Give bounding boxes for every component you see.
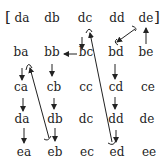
hook-dc [86,29,92,33]
letter-grid-diagram: [ ] da db dc dd de ba bb bc bd be ca cb … [0,0,163,162]
arrow-ed-to-dc [90,33,112,142]
arrow-eb-to-ba [30,68,49,138]
hook-ba [26,64,32,70]
arrow-de-to-bd [117,29,135,42]
hook-eb [44,136,51,140]
arrows-layer [0,0,163,162]
